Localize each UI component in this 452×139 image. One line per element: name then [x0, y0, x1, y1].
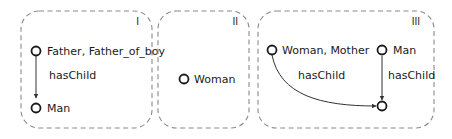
node-label: Woman [194, 73, 235, 86]
node-label: Woman, Mother [282, 44, 370, 57]
graph-diagram: I hasChild Father, Father_of_boy Man II … [0, 0, 452, 139]
edge-label: hasChild [298, 69, 345, 82]
node-circle[interactable] [268, 46, 277, 55]
node-label: Father, Father_of_boy [47, 45, 166, 58]
panel-border [158, 11, 249, 128]
panel-ii: II Woman [158, 11, 249, 128]
node-circle[interactable] [180, 75, 189, 84]
node-circle[interactable] [378, 102, 387, 111]
panel-i: I hasChild Father, Father_of_boy Man [21, 11, 166, 128]
node-circle[interactable] [378, 46, 387, 55]
panel-iii: III hasChild hasChild Woman, Mother Man [258, 11, 435, 128]
panel-label: II [232, 16, 238, 27]
node-circle[interactable] [32, 104, 41, 113]
panel-label: I [136, 16, 139, 27]
node-label: Man [393, 44, 416, 57]
edge-label: hasChild [49, 69, 96, 82]
node-label: Man [47, 102, 70, 115]
edge-label: hasChild [388, 69, 435, 82]
panel-label: III [412, 16, 420, 27]
node-circle[interactable] [32, 47, 41, 56]
